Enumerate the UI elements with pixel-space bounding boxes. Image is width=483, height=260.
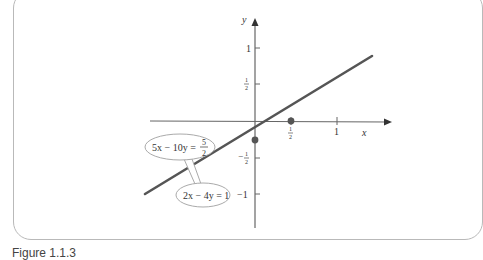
y-axis-label: y: [241, 14, 247, 25]
y-tick-label-neg-one: −1: [237, 189, 248, 200]
x-axis: [150, 121, 390, 122]
y-tick-label-half-den: 2: [245, 85, 248, 91]
callout-1-text: 5x − 10y =: [152, 142, 196, 153]
x-axis-arrow-icon: [384, 119, 392, 126]
callout-1-frac-den: 2: [202, 149, 206, 158]
figure-caption: Figure 1.1.3: [12, 246, 76, 260]
point-x-intercept: [288, 118, 295, 125]
y-axis-arrow-icon: [252, 18, 259, 26]
y-tick-label-neg-half-num: 1: [245, 151, 248, 157]
line-2x-4y-1: [145, 56, 372, 194]
callout-1-frac-num: 5: [202, 138, 206, 147]
x-axis-label: x: [361, 127, 367, 138]
point-y-intercept: [252, 137, 259, 144]
y-tick-label-half-num: 1: [245, 77, 248, 83]
x-tick-label-half-den: 2: [289, 134, 292, 140]
x-tick-label-one: 1: [334, 126, 339, 137]
y-tick-label-one: 1: [246, 43, 251, 54]
y-tick-label-neg-sign: −: [238, 151, 243, 161]
y-tick-label-neg-half-den: 2: [245, 159, 248, 165]
x-tick-label-half-num: 1: [289, 126, 292, 132]
callout-2-text: 2x − 4y = 1: [183, 190, 229, 201]
